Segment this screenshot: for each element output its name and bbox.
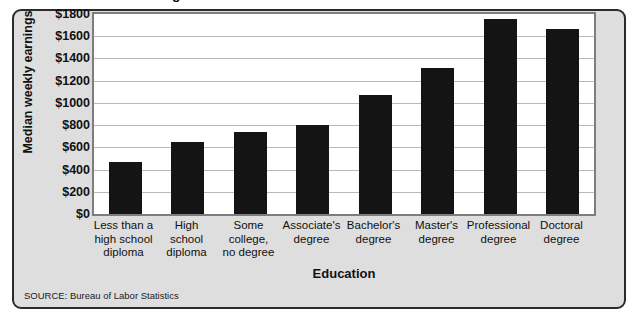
y-axis-tick-label: $1000 — [34, 96, 90, 110]
bar — [109, 162, 142, 214]
category-label-line: Doctoral — [528, 219, 595, 233]
chart-title-cropped: Education and Earnings — [24, 0, 324, 3]
x-axis-category-label: Doctoraldegree — [528, 219, 595, 246]
x-axis-title: Education — [92, 266, 596, 281]
y-axis-tick-label: $200 — [34, 185, 90, 199]
category-label-line: diploma — [153, 246, 220, 260]
gridline — [94, 147, 594, 148]
category-label-line: degree — [403, 233, 470, 247]
chart-figure: Education and Earnings Median weekly ear… — [0, 0, 642, 321]
category-label-line: Bachelor's — [340, 219, 407, 233]
category-label-line: degree — [528, 233, 595, 247]
category-label-line: degree — [278, 233, 345, 247]
gridline — [94, 36, 594, 37]
y-axis-tick-label: $800 — [34, 118, 90, 132]
x-axis-category-label: Professionaldegree — [465, 219, 532, 246]
x-axis-category-label: Highschooldiploma — [153, 219, 220, 260]
y-axis-tick-label: $1800 — [34, 7, 90, 21]
category-label-line: Master's — [403, 219, 470, 233]
x-axis-category-label: Associate'sdegree — [278, 219, 345, 246]
x-axis-category-label: Bachelor'sdegree — [340, 219, 407, 246]
y-axis-tick-label: $0 — [34, 207, 90, 221]
category-label-line: degree — [465, 233, 532, 247]
bar — [171, 142, 204, 214]
bar — [359, 95, 392, 214]
category-label-line: school — [153, 233, 220, 247]
gridline — [94, 58, 594, 59]
gridline — [94, 125, 594, 126]
y-axis-tick-label: $1400 — [34, 51, 90, 65]
category-label-line: no degree — [215, 246, 282, 260]
gridline — [94, 170, 594, 171]
y-axis-tick-label: $600 — [34, 140, 90, 154]
y-axis-tick-labels: $0$200$400$600$800$1000$1200$1400$1600$1… — [34, 12, 90, 216]
x-axis-category-label: Less than ahigh schooldiploma — [90, 219, 157, 260]
y-axis-tick-label: $1200 — [34, 74, 90, 88]
category-label-line: Professional — [465, 219, 532, 233]
bar — [421, 68, 454, 214]
category-label-line: diploma — [90, 246, 157, 260]
x-axis-category-label: Somecollege,no degree — [215, 219, 282, 260]
y-axis-tick-label: $1600 — [34, 29, 90, 43]
category-label-line: high school — [90, 233, 157, 247]
bar — [296, 125, 329, 214]
category-label-line: Some — [215, 219, 282, 233]
x-axis-category-labels: Less than ahigh schooldiplomaHighschoold… — [92, 219, 596, 265]
bar — [484, 19, 517, 214]
category-label-line: college, — [215, 233, 282, 247]
gridline — [94, 192, 594, 193]
plot-area — [92, 12, 596, 216]
source-note: SOURCE: Bureau of Labor Statistics — [24, 290, 179, 301]
category-label-line: Less than a — [90, 219, 157, 233]
gridline — [94, 103, 594, 104]
y-axis-tick-label: $400 — [34, 163, 90, 177]
bar — [234, 132, 267, 214]
bar — [546, 29, 579, 214]
category-label-line: Associate's — [278, 219, 345, 233]
category-label-line: degree — [340, 233, 407, 247]
x-axis-category-label: Master'sdegree — [403, 219, 470, 246]
gridline — [94, 81, 594, 82]
plot-inner — [94, 14, 594, 214]
category-label-line: High — [153, 219, 220, 233]
y-axis-title: Median weekly earnings — [21, 2, 35, 162]
